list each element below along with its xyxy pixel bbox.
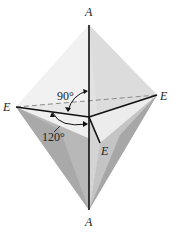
label-angle-90: 90° — [57, 89, 74, 103]
label-equatorial-front: E — [100, 144, 109, 158]
label-axial-bottom: A — [84, 215, 93, 229]
label-axial-top: A — [84, 5, 93, 19]
trigonal-bipyramid-diagram: A A E E E 90° 120° — [0, 0, 175, 238]
label-angle-120: 120° — [42, 130, 65, 144]
label-equatorial-right: E — [159, 89, 168, 103]
label-equatorial-left: E — [2, 100, 11, 114]
